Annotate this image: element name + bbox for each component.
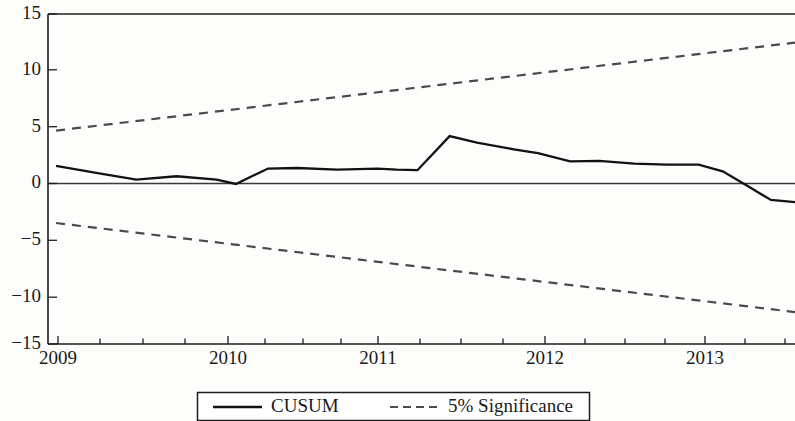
cusum-stability-test-plot: 15 10 5 0 −5 −10 −15 bbox=[0, 0, 795, 421]
y-tick-label-15: 15 bbox=[22, 2, 41, 23]
series-lower-5pct-significance-line bbox=[56, 223, 795, 312]
y-axis-tick-labels: 15 10 5 0 −5 −10 −15 bbox=[11, 2, 41, 353]
chart-legend: CUSUM 5% Significance bbox=[198, 393, 590, 421]
plot-frame bbox=[48, 14, 795, 344]
cusum-chart-figure: 15 10 5 0 −5 −10 −15 bbox=[0, 0, 795, 421]
y-tick-label-0: 0 bbox=[32, 171, 42, 192]
y-tick-label-5: 5 bbox=[32, 115, 42, 136]
series-upper-5pct-significance-line bbox=[56, 43, 795, 131]
y-tick-label-minus-5: −5 bbox=[21, 228, 41, 249]
y-tick-label-10: 10 bbox=[22, 58, 41, 79]
y-tick-label-minus-15: −15 bbox=[11, 332, 41, 353]
x-tick-label-2012: 2012 bbox=[526, 347, 564, 368]
x-tick-label-2010: 2010 bbox=[209, 347, 247, 368]
legend-label-cusum: CUSUM bbox=[271, 395, 339, 416]
x-axis-tick-labels: 2009 2010 2011 2012 2013 bbox=[39, 347, 724, 368]
legend-label-significance: 5% Significance bbox=[448, 395, 573, 416]
x-tick-label-2011: 2011 bbox=[359, 347, 396, 368]
y-axis-ticks bbox=[48, 14, 57, 344]
x-axis-ticks bbox=[58, 336, 785, 344]
x-tick-label-2013: 2013 bbox=[686, 347, 724, 368]
y-tick-label-minus-10: −10 bbox=[11, 285, 41, 306]
x-tick-label-2009: 2009 bbox=[39, 347, 77, 368]
series-cusum-line bbox=[56, 136, 795, 202]
